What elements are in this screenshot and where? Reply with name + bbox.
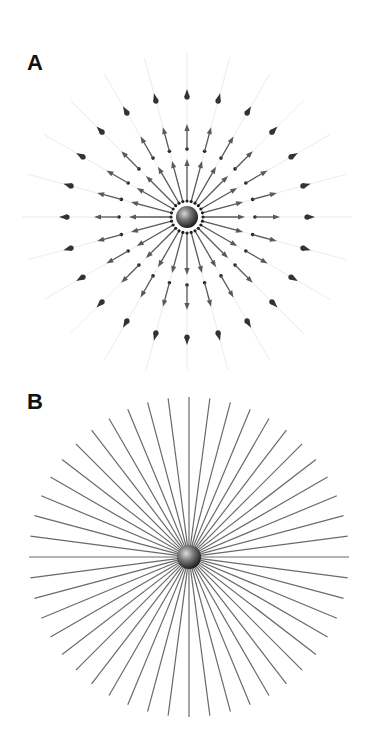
field-line (128, 564, 186, 704)
charge-ring-dot (199, 207, 202, 210)
charge-ring-dot (170, 220, 173, 223)
field-line (195, 460, 316, 553)
arrowhead-icon (230, 188, 237, 194)
arrowhead-icon (207, 127, 212, 134)
middle-field-arrow (205, 132, 210, 151)
outer-arrow-tail (80, 274, 85, 279)
middle-field-arrow (246, 251, 263, 261)
middle-field-arrow (143, 276, 153, 293)
charge-ring-dot (201, 220, 204, 223)
arrowhead-icon (97, 237, 104, 242)
arrowhead-icon (184, 159, 189, 166)
charge-ring-dot (199, 223, 202, 226)
field-vector-diagram (0, 0, 373, 370)
charge-ring-dot (169, 215, 172, 218)
outer-arrow-tail (244, 110, 249, 115)
outer-arrow-tail (68, 183, 73, 188)
arrowhead-icon (171, 266, 176, 273)
charge-ring-dot (193, 229, 196, 232)
field-line (192, 409, 250, 549)
inner-field-arrow (150, 180, 175, 205)
middle-field-arrow (205, 283, 210, 302)
outer-arrow-tail (288, 274, 293, 279)
outer-arrow-tail (288, 154, 293, 159)
charge-ring-dot (201, 215, 204, 218)
arrowhead-icon (131, 228, 138, 233)
charge-ring-dot (170, 211, 173, 214)
arrowhead-icon (236, 201, 243, 206)
middle-field-arrow (246, 173, 263, 183)
field-line (34, 516, 181, 555)
outer-arrow-tail (269, 130, 274, 135)
charge-ring-dot (174, 204, 177, 207)
middle-field-arrow (253, 235, 272, 240)
field-line (192, 564, 250, 704)
arrowhead-icon (141, 290, 147, 297)
outer-arrow-tail (304, 214, 309, 219)
field-line (148, 402, 187, 549)
outer-arrow-tail (124, 318, 129, 323)
arrowhead-icon (184, 268, 189, 275)
middle-field-arrow (111, 173, 128, 183)
field-line (34, 559, 181, 598)
arrowhead-icon (210, 260, 216, 267)
middle-field-arrow (102, 235, 121, 240)
charge-ring-dot (181, 200, 184, 203)
field-line (62, 460, 183, 553)
arrowhead-icon (94, 214, 101, 219)
outer-arrow-tail (124, 110, 129, 115)
arrowhead-icon (137, 188, 144, 194)
charge-ring-dot (197, 227, 200, 230)
arrowhead-icon (260, 171, 267, 177)
arrowhead-icon (210, 167, 216, 174)
field-line (197, 559, 344, 598)
arrowhead-icon (236, 228, 243, 233)
arrowhead-icon (129, 214, 136, 219)
charge-ring-dot (177, 229, 180, 232)
arrowhead-icon (273, 214, 280, 219)
arrowhead-icon (141, 136, 147, 143)
field-line (92, 430, 185, 551)
field-line (196, 560, 336, 618)
arrowhead-icon (238, 214, 245, 219)
charge-ring-dot (172, 223, 175, 226)
panel-b-field-lines: B (0, 370, 373, 740)
outer-arrow-tail (64, 214, 69, 219)
point-charge-sphere-icon (177, 545, 201, 569)
field-line (76, 444, 183, 551)
outer-arrow-tail (100, 299, 105, 304)
field-line (92, 563, 185, 684)
charge-ring-dot (181, 231, 184, 234)
arrowhead-icon (106, 258, 113, 264)
charge-ring-dot (185, 199, 188, 202)
arrowhead-icon (131, 201, 138, 206)
middle-field-arrow (125, 265, 139, 279)
inner-field-arrow (199, 229, 224, 254)
charge-ring-dot (172, 207, 175, 210)
charge-ring-dot (190, 200, 193, 203)
panel-a-field-vectors: A (0, 0, 373, 370)
arrowhead-icon (207, 299, 212, 306)
point-charge-sphere-icon (176, 206, 198, 228)
field-line (194, 563, 287, 684)
middle-field-arrow (102, 194, 121, 199)
arrowhead-icon (198, 266, 203, 273)
charge-ring-dot (201, 211, 204, 214)
outer-arrow-tail (215, 330, 220, 335)
field-line (41, 560, 181, 618)
arrowhead-icon (158, 260, 164, 267)
middle-field-arrow (221, 141, 231, 158)
middle-field-arrow (253, 194, 272, 199)
arrowhead-icon (162, 299, 167, 306)
outer-arrow-tail (153, 98, 158, 103)
outer-arrow-tail (300, 183, 305, 188)
outer-arrow-tail (300, 245, 305, 250)
arrowhead-icon (228, 290, 234, 297)
arrowhead-icon (106, 171, 113, 177)
field-line (41, 496, 181, 554)
arrowhead-icon (162, 127, 167, 134)
outer-arrow-tail (68, 245, 73, 250)
arrowhead-icon (97, 192, 104, 197)
field-line (195, 562, 316, 655)
arrowhead-icon (230, 240, 237, 246)
